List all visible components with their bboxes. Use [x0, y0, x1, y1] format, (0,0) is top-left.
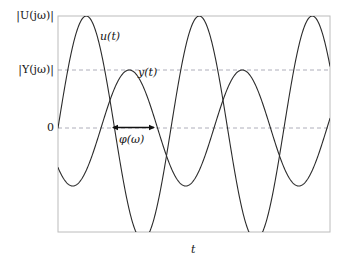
frequency-response-figure: |U(jω)| |Y(jω)| 0 u(t) y(t) φ(ω) t — [0, 0, 339, 263]
phase-arrow — [112, 125, 155, 130]
curve-label-u: u(t) — [100, 31, 120, 42]
y-tick-label-u-magnitude: |U(jω)| — [2, 10, 54, 21]
y-tick-label-zero: 0 — [2, 122, 54, 133]
y-tick-label-y-magnitude: |Y(jω)| — [2, 64, 54, 75]
frame-rect — [58, 16, 330, 232]
plot-frame — [58, 16, 330, 232]
phase-arrow-head-right — [149, 125, 155, 130]
x-axis-label: t — [191, 244, 195, 255]
curve-label-y: y(t) — [138, 67, 157, 78]
phase-annotation-label: φ(ω) — [119, 134, 144, 145]
